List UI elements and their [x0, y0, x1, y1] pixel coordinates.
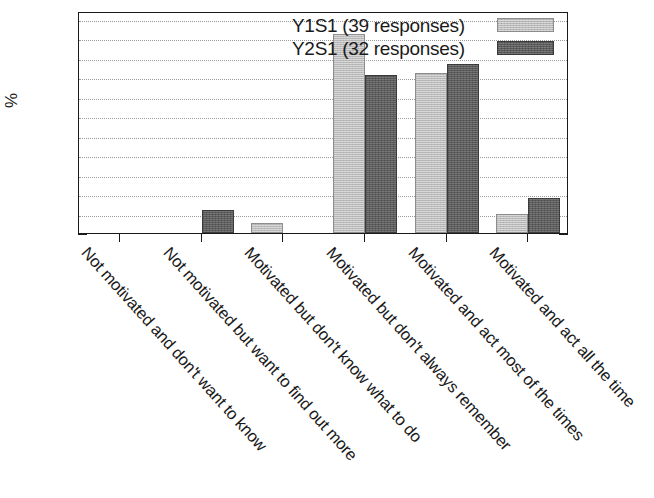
gridline — [79, 196, 567, 197]
bar-y1s1-cat5 — [415, 73, 447, 233]
x-axis-category-label: Motivated but don't know what to do — [242, 244, 426, 445]
gridline — [79, 118, 567, 119]
x-axis-tick-mark — [119, 234, 120, 242]
bar-y2s1-cat4 — [365, 75, 397, 233]
y-axis-tick-mark — [559, 234, 568, 235]
legend: Y1S1 (39 responses) Y2S1 (32 responses) — [292, 14, 560, 60]
bar-y2s1-cat6 — [528, 198, 560, 233]
bar-y1s1-cat6 — [496, 214, 528, 233]
gridline — [79, 216, 567, 217]
legend-label-y1s1: Y1S1 (39 responses) — [292, 16, 465, 35]
x-axis-tick-mark — [527, 234, 528, 242]
bar-y2s1-cat2 — [202, 210, 234, 233]
gridline — [79, 79, 567, 80]
x-axis-category-label: Motivated but don't always remember — [323, 244, 514, 454]
gridline — [79, 99, 567, 100]
legend-label-y2s1: Y2S1 (32 responses) — [292, 39, 465, 58]
x-axis-category-label: Not motivated and don't want to know — [78, 244, 270, 454]
legend-entry-y1s1: Y1S1 (39 responses) — [292, 14, 560, 37]
x-axis-tick-mark — [364, 234, 365, 242]
bar-y1s1-cat4 — [333, 34, 365, 233]
legend-swatch-y1s1 — [497, 18, 554, 32]
legend-swatch-y2s1 — [497, 41, 554, 55]
legend-entry-y2s1: Y2S1 (32 responses) — [292, 37, 560, 60]
bar-y2s1-cat5 — [447, 64, 479, 233]
x-axis-category-label: Motivated and act all the time — [487, 244, 639, 410]
bar-y1s1-cat3 — [251, 223, 283, 233]
gridline — [79, 138, 567, 139]
bar-chart: % 01020304050 Y1S1 (39 responses) Y2S1 (… — [0, 0, 654, 498]
gridline — [79, 157, 567, 158]
x-axis-category-label: Motivated and act most of the times — [405, 244, 587, 444]
x-axis-tick-mark — [201, 234, 202, 242]
x-axis-tick-mark — [446, 234, 447, 242]
gridline — [79, 177, 567, 178]
y-axis-tick-mark — [78, 234, 87, 235]
x-axis-tick-mark — [282, 234, 283, 242]
y-axis-title: % — [2, 93, 22, 108]
